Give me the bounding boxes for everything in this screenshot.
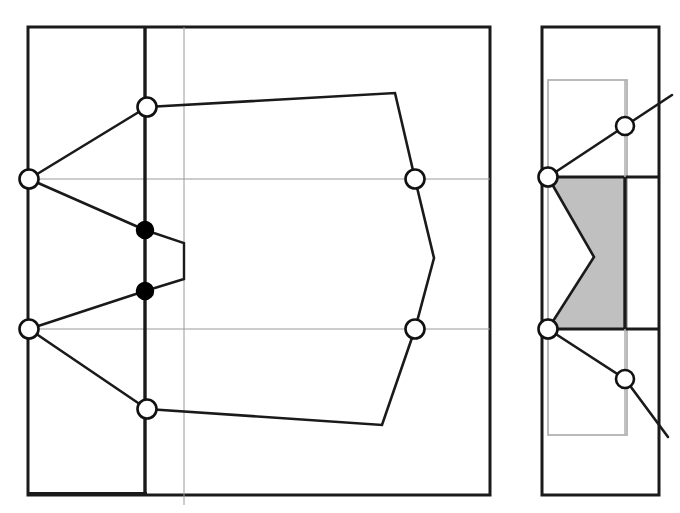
node-notch-lower-filled [137,283,154,300]
node-section-left-lower [539,320,558,339]
left-panel-frame [28,27,490,495]
right-section-panel [539,27,673,495]
node-section-right-upper [616,117,634,135]
node-section-left-upper [539,168,558,187]
node-right-upper [406,170,425,189]
node-section-right-lower [616,370,634,388]
node-right-lower [406,320,425,339]
node-top-divider [138,98,157,117]
left-elevation-panel [20,27,491,505]
node-left-lower [20,320,39,339]
node-bottom-divider [138,400,157,419]
node-left-upper [20,170,39,189]
diagram-canvas [0,0,680,513]
node-notch-upper-filled [137,222,154,239]
technical-diagram [0,0,680,513]
